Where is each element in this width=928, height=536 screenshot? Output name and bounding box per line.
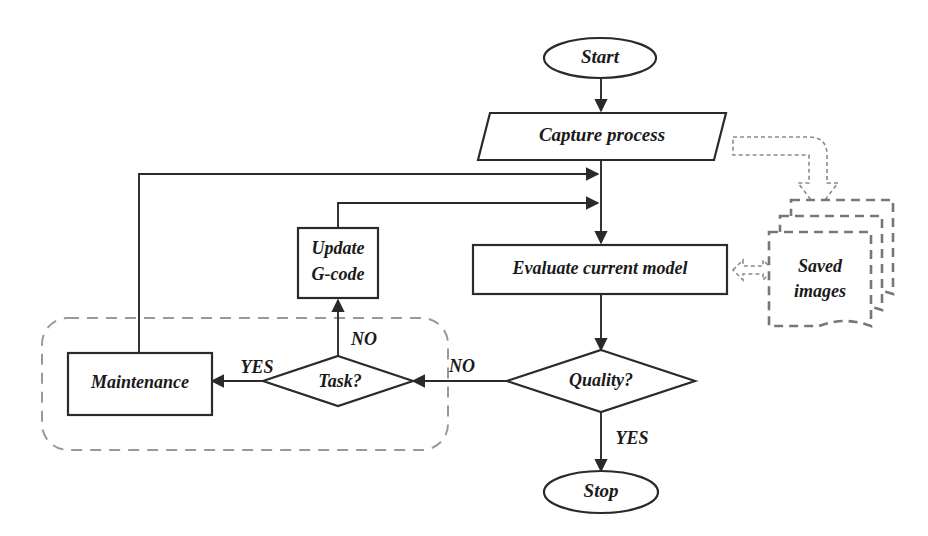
connector-capture-to-saved-images-icon <box>733 137 838 209</box>
flowchart-canvas: Start Capture process Saved images Evalu… <box>0 0 928 536</box>
node-maintenance[interactable]: Maintenance <box>68 353 212 415</box>
edge-label-quality-yes: YES <box>615 428 648 448</box>
connector-update-gcode-to-capture <box>338 203 598 228</box>
node-quality-decision[interactable]: Quality? <box>507 350 695 412</box>
node-update-gcode-label-line1: Update <box>312 238 365 258</box>
node-saved-images-label-line2: images <box>794 281 846 301</box>
edge-label-task-yes: YES <box>240 357 273 377</box>
node-task-decision[interactable]: Task? <box>263 356 413 406</box>
edge-label-task-no: NO <box>350 329 377 349</box>
node-stop[interactable]: Stop <box>544 471 658 513</box>
node-update-gcode[interactable]: Update G-code <box>298 228 378 298</box>
node-task-decision-label: Task? <box>318 371 361 391</box>
node-saved-images-label-line1: Saved <box>798 256 843 276</box>
node-saved-images[interactable]: Saved images <box>769 200 893 326</box>
connector-evaluate-saved-images-bidirectional-icon <box>733 260 773 280</box>
node-evaluate-current-model[interactable]: Evaluate current model <box>473 245 727 294</box>
flowchart-diagram: Start Capture process Saved images Evalu… <box>0 0 928 536</box>
node-stop-label: Stop <box>584 480 619 501</box>
edge-label-quality-no: NO <box>448 356 475 376</box>
node-start-label: Start <box>581 46 620 67</box>
node-quality-decision-label: Quality? <box>569 370 633 390</box>
node-update-gcode-label-line2: G-code <box>312 264 365 284</box>
node-maintenance-label: Maintenance <box>90 372 189 392</box>
node-capture-process[interactable]: Capture process <box>478 113 726 160</box>
node-capture-process-label: Capture process <box>539 124 665 145</box>
node-evaluate-current-model-label: Evaluate current model <box>512 258 688 278</box>
node-start[interactable]: Start <box>544 38 656 78</box>
